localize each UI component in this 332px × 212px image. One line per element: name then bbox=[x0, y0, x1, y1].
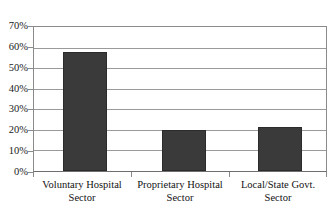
y-tick-label: 10% bbox=[9, 146, 28, 157]
y-tick-label: 0% bbox=[14, 167, 28, 178]
plot-area bbox=[33, 26, 327, 172]
y-tick-label: 50% bbox=[9, 62, 28, 73]
category-label-line2: Sector bbox=[229, 191, 327, 204]
bar-local-state-govt-sector bbox=[258, 127, 302, 171]
category-label-proprietary-hospital-sector: Proprietary Hospital Sector bbox=[131, 176, 229, 212]
bar-chart: 70% 60% 50% 40% 30% 20% 10% 0% Volunta bbox=[0, 0, 332, 212]
bar-voluntary-hospital-sector bbox=[63, 52, 107, 171]
y-tick-label: 30% bbox=[9, 104, 28, 115]
category-label-line1: Proprietary Hospital bbox=[137, 179, 222, 190]
x-axis-category-labels: Voluntary Hospital Sector Proprietary Ho… bbox=[33, 176, 327, 212]
y-axis: 70% 60% 50% 40% 30% 20% 10% 0% bbox=[0, 0, 31, 212]
y-tick-label: 60% bbox=[9, 42, 28, 53]
y-tick-label: 40% bbox=[9, 83, 28, 94]
category-label-local-state-govt-sector: Local/State Govt. Sector bbox=[229, 176, 327, 212]
bars-layer bbox=[34, 27, 326, 171]
category-label-line2: Sector bbox=[33, 191, 131, 204]
y-tick-label: 20% bbox=[9, 125, 28, 136]
category-label-voluntary-hospital-sector: Voluntary Hospital Sector bbox=[33, 176, 131, 212]
category-label-line1: Local/State Govt. bbox=[241, 179, 315, 190]
bar-proprietary-hospital-sector bbox=[162, 130, 206, 171]
category-label-line2: Sector bbox=[131, 191, 229, 204]
category-label-line1: Voluntary Hospital bbox=[42, 179, 121, 190]
y-tick-label: 70% bbox=[9, 21, 28, 32]
